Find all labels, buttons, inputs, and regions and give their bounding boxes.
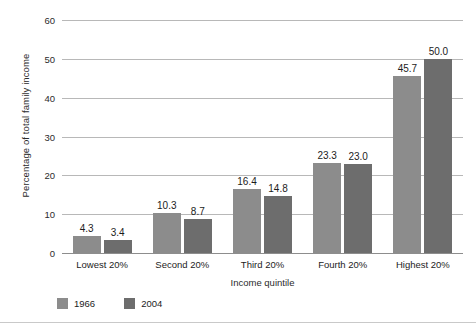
bar-group: 45.750.0Highest 20% — [393, 20, 452, 253]
bar-group: 16.414.8Third 20% — [233, 20, 292, 253]
legend-item[interactable]: 2004 — [124, 298, 162, 309]
x-tick-label: Fourth 20% — [318, 259, 367, 270]
legend-label: 2004 — [141, 298, 162, 309]
y-tick-label: 20 — [44, 170, 55, 181]
bar[interactable]: 10.3 — [153, 213, 181, 253]
bar-value-label: 4.3 — [80, 223, 94, 234]
chart-legend: 19662004 — [57, 298, 191, 309]
bar-group: 23.323.0Fourth 20% — [313, 20, 372, 253]
bar[interactable]: 16.4 — [233, 189, 261, 253]
bar-value-label: 23.3 — [317, 150, 336, 161]
y-tick-label: 40 — [44, 92, 55, 103]
y-tick-label: 50 — [44, 53, 55, 64]
x-axis-title: Income quintile — [62, 277, 463, 288]
bar-value-label: 8.7 — [191, 206, 205, 217]
bar[interactable]: 23.3 — [313, 163, 341, 253]
legend-label: 1966 — [74, 298, 95, 309]
bar[interactable]: 45.7 — [393, 76, 421, 253]
x-tick-label: Highest 20% — [396, 259, 450, 270]
legend-swatch — [124, 298, 135, 309]
y-tick-label: 10 — [44, 209, 55, 220]
bar-group: 10.38.7Second 20% — [153, 20, 212, 253]
bar-value-label: 23.0 — [348, 151, 367, 162]
bar[interactable]: 4.3 — [73, 236, 101, 253]
x-tick-label: Third 20% — [241, 259, 284, 270]
x-axis-line: 0 — [62, 253, 463, 254]
bar-value-label: 14.8 — [268, 183, 287, 194]
plot-area: 01020304050604.33.4Lowest 20%10.38.7Seco… — [62, 20, 463, 253]
legend-swatch — [57, 298, 68, 309]
y-tick-label: 30 — [44, 131, 55, 142]
bar[interactable]: 23.0 — [344, 164, 372, 253]
bar-group: 4.33.4Lowest 20% — [73, 20, 132, 253]
legend-item[interactable]: 1966 — [57, 298, 95, 309]
bar-value-label: 10.3 — [157, 200, 176, 211]
x-tick-label: Second 20% — [155, 259, 209, 270]
bar-value-label: 16.4 — [237, 176, 256, 187]
figure-bottom-divider — [0, 322, 476, 323]
bar-value-label: 50.0 — [429, 46, 448, 57]
y-tick-label: 60 — [44, 15, 55, 26]
bar-value-label: 3.4 — [111, 227, 125, 238]
chart-figure: Percentage of total family income 010203… — [0, 0, 476, 329]
y-axis-title: Percentage of total family income — [20, 26, 31, 226]
bar[interactable]: 8.7 — [184, 219, 212, 253]
bar[interactable]: 50.0 — [424, 59, 452, 253]
x-tick-label: Lowest 20% — [76, 259, 128, 270]
bar[interactable]: 3.4 — [104, 240, 132, 253]
bar[interactable]: 14.8 — [264, 196, 292, 253]
y-tick-label: 0 — [50, 248, 55, 259]
bar-value-label: 45.7 — [398, 63, 417, 74]
